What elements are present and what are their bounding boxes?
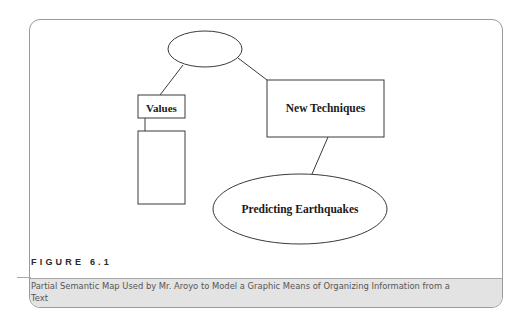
node-values-child-box — [138, 131, 185, 204]
node-top-ellipse — [168, 31, 242, 67]
edge-new-techniques-predicting — [312, 137, 328, 174]
semantic-map: Values New Techniques Predicting Earthqu… — [0, 0, 516, 315]
node-predicting-label: Predicting Earthquakes — [241, 203, 359, 216]
edge-top-values — [160, 65, 183, 95]
edge-top-new-techniques — [238, 58, 267, 80]
figure-number: FIGURE 6.1 — [31, 257, 112, 267]
node-new-techniques-label: New Techniques — [286, 102, 366, 115]
figure-caption: Partial Semantic Map Used by Mr. Aroyo t… — [31, 280, 461, 304]
node-values-label: Values — [146, 102, 177, 114]
